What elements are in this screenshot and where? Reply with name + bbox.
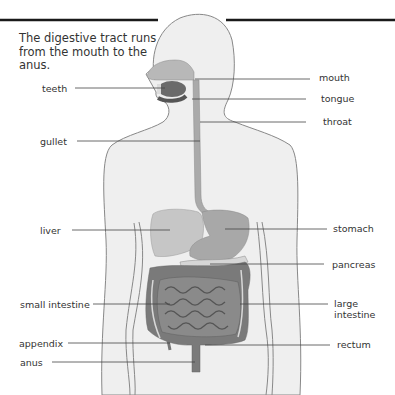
label-rectum: rectum bbox=[337, 339, 371, 350]
label-anus: anus bbox=[20, 357, 43, 368]
label-pancreas: pancreas bbox=[332, 259, 375, 270]
label-stomach: stomach bbox=[333, 223, 374, 234]
label-liver: liver bbox=[40, 225, 61, 236]
label-small-intestine: small intestine bbox=[20, 299, 90, 310]
diagram-caption: The digestive tract runs from the mouth … bbox=[19, 32, 159, 73]
appendix-shape bbox=[168, 340, 170, 350]
mouth-cavity bbox=[158, 81, 186, 97]
label-teeth: teeth bbox=[42, 83, 67, 94]
label-tongue: tongue bbox=[321, 93, 354, 104]
label-gullet: gullet bbox=[40, 136, 67, 147]
label-throat: throat bbox=[323, 116, 352, 127]
teeth-shape bbox=[157, 84, 161, 94]
label-mouth: mouth bbox=[319, 72, 350, 83]
label-large-intestine: large intestine bbox=[334, 298, 384, 320]
label-appendix: appendix bbox=[19, 338, 63, 349]
digestive-diagram: The digestive tract runs from the mouth … bbox=[0, 0, 395, 395]
